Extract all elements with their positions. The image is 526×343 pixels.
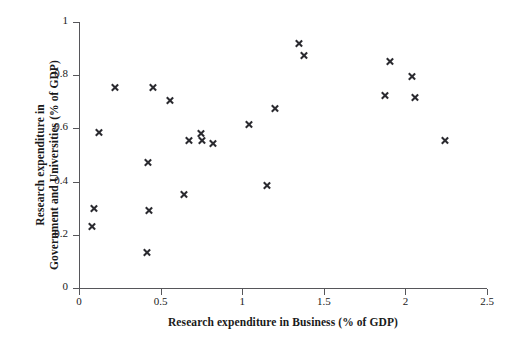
data-point-marker [142, 248, 151, 257]
data-point-marker [165, 96, 174, 105]
data-point-marker [270, 104, 279, 113]
data-point-marker [89, 204, 98, 213]
data-point-marker [145, 206, 154, 215]
data-point-marker [411, 93, 420, 102]
data-point-marker [148, 83, 157, 92]
data-point-marker [184, 136, 193, 145]
data-point-marker [381, 91, 390, 100]
data-point-marker [385, 57, 394, 66]
data-point-marker [262, 181, 271, 190]
data-point-marker [300, 51, 309, 60]
scatter-chart: Research expenditure in Government and U… [0, 0, 526, 343]
data-point-marker [180, 190, 189, 199]
data-point-marker [208, 139, 217, 148]
data-point-marker [440, 136, 449, 145]
data-point-marker [110, 83, 119, 92]
data-point-marker [244, 120, 253, 129]
data-point-marker [294, 39, 303, 48]
data-point-marker [198, 136, 207, 145]
data-point-marker [94, 128, 103, 137]
data-point-marker [407, 72, 416, 81]
data-point-marker [143, 158, 152, 167]
data-point-marker [88, 222, 97, 231]
plot-area [0, 0, 526, 343]
x-axis-title: Research expenditure in Business (% of G… [79, 316, 487, 328]
